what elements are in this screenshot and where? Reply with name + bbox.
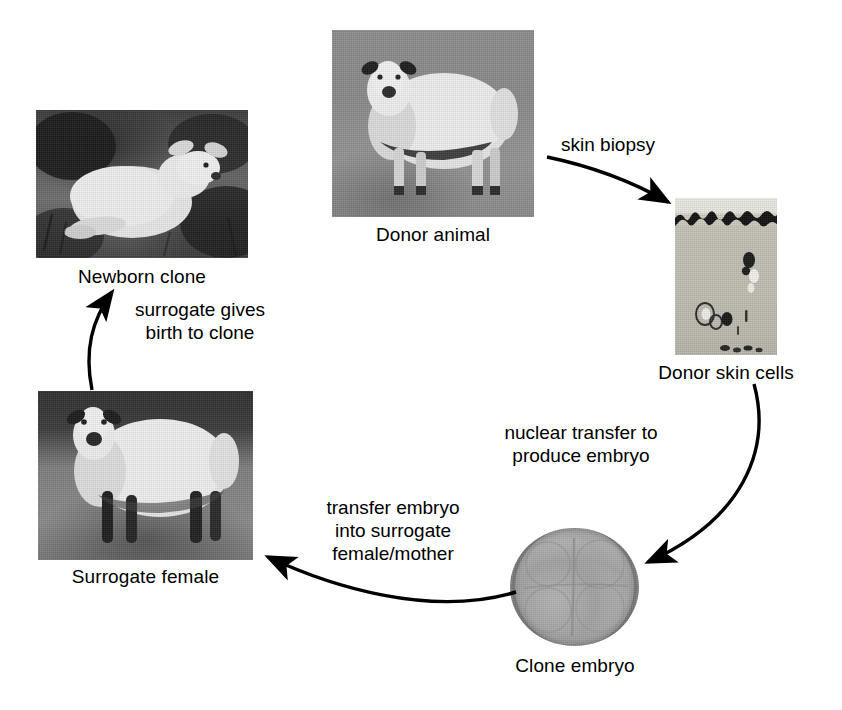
photo-grain [675,198,777,355]
surrogate-female-caption: Surrogate female [38,566,253,588]
photo-grain [38,391,253,560]
donor-animal-caption: Donor animal [332,224,534,246]
newborn-clone-caption: Newborn clone [36,266,248,288]
arrow-label-surrogate-gives-birth: surrogate gives birth to clone [100,298,300,344]
photo-grain [332,30,534,217]
arrow-label-transfer-embryo: transfer embryo into surrogate female/mo… [288,496,498,565]
arrow-label-skin-biopsy: skin biopsy [561,133,761,156]
photo-grain [510,528,639,646]
arrow-skin-biopsy [547,157,668,202]
arrow-label-nuclear-transfer: nuclear transfer to produce embryo [446,421,716,467]
clone-embryo-photo [510,528,639,646]
donor-skin-cells-caption: Donor skin cells [626,362,826,384]
cloning-cycle-diagram: Donor animal [0,0,842,710]
donor-animal-photo [332,30,534,217]
arrow-nuclear-transfer [648,384,759,562]
clone-embryo-caption: Clone embryo [475,655,675,677]
photo-grain [36,110,248,258]
surrogate-female-photo [38,391,253,560]
donor-skin-cells-photo [675,198,777,355]
newborn-clone-photo [36,110,248,258]
